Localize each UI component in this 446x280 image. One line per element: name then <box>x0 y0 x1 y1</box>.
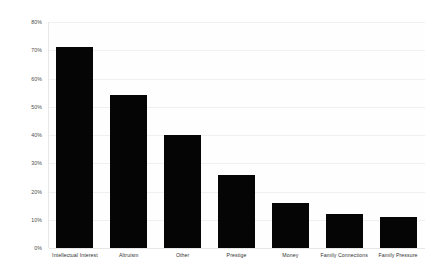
bar <box>380 217 417 248</box>
x-axis-category-label: Altruism <box>119 252 139 259</box>
bar-slot <box>56 22 93 248</box>
bar-slot <box>164 22 201 248</box>
y-axis-tick-label: 70% <box>31 47 42 53</box>
bar-slot <box>380 22 417 248</box>
y-axis-tick-label: 50% <box>31 104 42 110</box>
y-axis-tick-label: 30% <box>31 160 42 166</box>
x-axis-category-label: Family Connections <box>321 252 368 259</box>
bar-slot <box>272 22 309 248</box>
y-axis-tick-label: 10% <box>31 217 42 223</box>
y-axis-tick-label: 60% <box>31 76 42 82</box>
gridline-0% <box>49 248 425 249</box>
y-axis: 0%10%20%30%40%50%60%70%80% <box>0 0 48 280</box>
y-axis-tick-label: 0% <box>34 245 42 251</box>
bar-slot <box>110 22 147 248</box>
bar <box>326 214 363 248</box>
x-axis-category-label: Other <box>176 252 189 259</box>
x-axis-category-label: Family Pressure <box>379 252 418 259</box>
y-axis-tick-label: 80% <box>31 19 42 25</box>
bar <box>56 47 93 248</box>
x-axis-category-label: Prestige <box>227 252 247 259</box>
bar <box>164 135 201 248</box>
y-axis-tick-label: 20% <box>31 189 42 195</box>
bar-series <box>48 22 425 248</box>
y-axis-tick-label: 40% <box>31 132 42 138</box>
x-axis-category-label: Intellectual Interest <box>52 252 98 259</box>
bar-slot <box>218 22 255 248</box>
x-axis: Intellectual InterestAltruismOtherPresti… <box>48 252 425 272</box>
bar <box>272 203 309 248</box>
bar <box>218 175 255 248</box>
bar-chart: 0%10%20%30%40%50%60%70%80% Intellectual … <box>0 0 446 280</box>
x-axis-category-label: Money <box>282 252 298 259</box>
bar-slot <box>326 22 363 248</box>
bar <box>110 95 147 248</box>
